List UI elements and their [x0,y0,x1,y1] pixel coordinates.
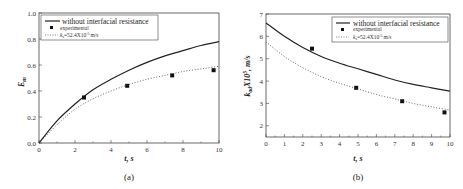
y-tick-label: 0.0 [27,140,36,148]
model-curve-solid [39,42,219,143]
y-tick-label: 0.6 [27,62,36,70]
y-tick-label: 6 [260,33,264,41]
x-tick-label: 8 [411,140,415,148]
x-tick-label: 10 [216,146,224,154]
data-point-marker [310,47,314,51]
caption-b: (b) [353,172,364,182]
x-tick-label: 0 [264,140,268,148]
y-tick-label: 4 [260,78,264,86]
y-tick-label: 2 [260,122,264,130]
model-curve-dotted [266,42,450,110]
legend-b: without interfacial resistance experimen… [332,17,448,42]
x-axis-label-a: t, s [124,154,133,163]
series-a [39,42,219,143]
data-point-marker [442,110,446,114]
y-axis-label-a: Em [17,77,27,88]
y-tick-label: 1.0 [27,10,36,18]
data-point-marker [82,96,86,100]
chart-panel-b: 012345678910234567 without interfacial r… [242,11,454,183]
x-tick-label: 9 [430,140,434,148]
legend-square-marker-icon [50,26,53,29]
data-point-marker [125,84,129,88]
y-tick-label: 0.8 [27,36,36,44]
legend-label-experimental: experimental [353,26,382,32]
chart-panel-a: 02468100.00.20.40.60.81.0 without interf… [17,10,223,183]
data-point-marker [212,68,216,72]
legend-label-ks: ks=52.4X10-5m/s [353,33,392,41]
x-tick-label: 3 [319,140,323,148]
legend-square-marker-icon [341,28,344,31]
x-tick-label: 2 [301,140,305,148]
x-tick-label: 6 [145,146,149,154]
legend-label-ks: ks=52.4X10-5m/s [60,31,99,39]
y-tick-label: 0.2 [27,114,36,122]
x-tick-label: 1 [283,140,287,148]
x-tick-label: 0 [37,146,41,154]
x-tick-label: 4 [338,140,342,148]
legend-a: without interfacial resistance experimen… [41,15,158,40]
y-axis-label-b: kadX105, m/s [242,55,253,96]
legend-label-experimental: experimental [60,25,89,31]
x-tick-label: 2 [73,146,77,154]
caption-a: (a) [124,172,134,182]
x-tick-label: 6 [375,140,379,148]
y-tick-label: 5 [260,55,264,63]
figure: 02468100.00.20.40.60.81.0 without interf… [0,0,463,189]
x-tick-label: 7 [393,140,397,148]
y-tick-label: 3 [260,100,264,108]
y-tick-label: 7 [260,11,264,19]
y-tick-label: 0.4 [27,88,36,96]
x-tick-label: 5 [356,140,360,148]
x-tick-label: 4 [109,146,113,154]
x-axis-label-b: t, s [353,154,362,163]
model-curve-dotted [39,66,219,143]
x-tick-label: 10 [447,140,455,148]
x-tick-label: 8 [181,146,185,154]
